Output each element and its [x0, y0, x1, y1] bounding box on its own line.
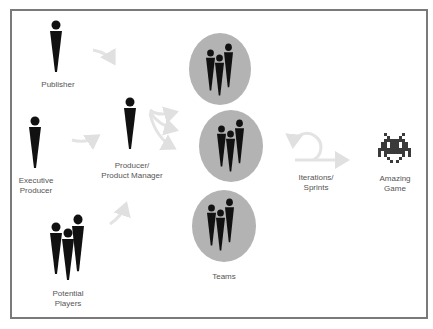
iterations-label: Iterations/ Sprints — [288, 173, 344, 193]
loop-arrow-icon — [285, 116, 355, 166]
group-icon — [206, 42, 238, 98]
space-invader-icon — [378, 133, 411, 166]
game-label: Amazing Game — [370, 174, 420, 194]
group-icon — [207, 197, 239, 253]
teams-label: Teams — [200, 272, 248, 282]
group-icon — [217, 118, 249, 174]
